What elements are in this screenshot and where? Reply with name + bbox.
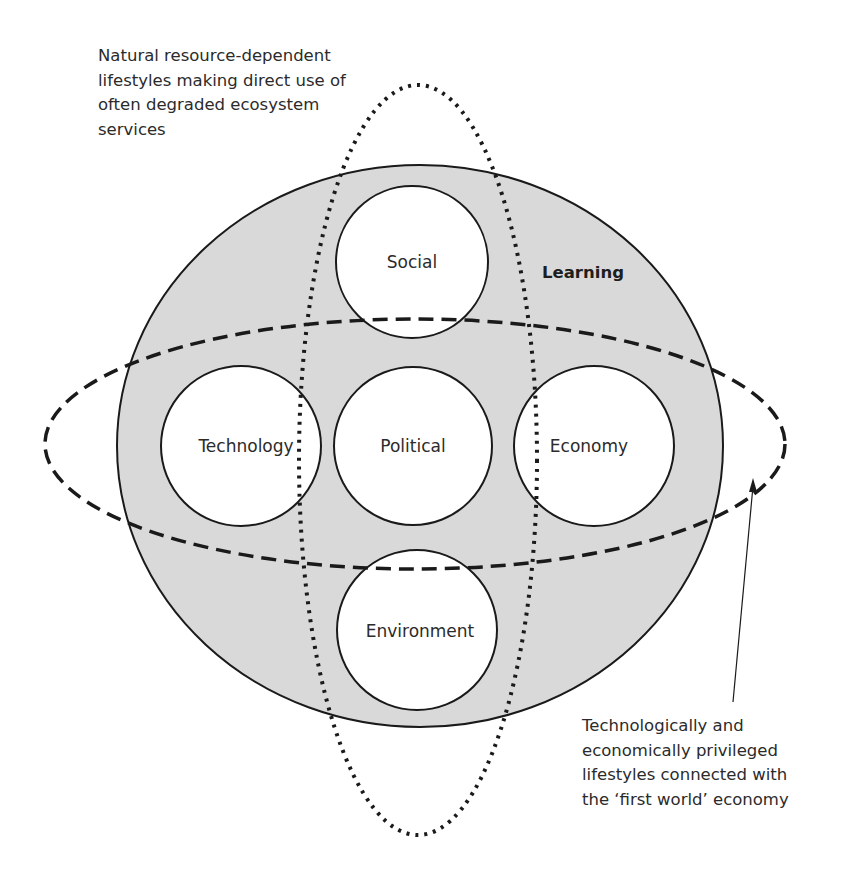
- lifestyle-diagram: Learning Social Technology Political Eco…: [0, 0, 841, 873]
- political-label: Political: [380, 436, 445, 456]
- technology-label: Technology: [197, 436, 293, 456]
- arrow-head-icon: [749, 478, 757, 492]
- annotation-arrow-line: [733, 486, 753, 702]
- environment-label: Environment: [366, 621, 475, 641]
- economy-label: Economy: [550, 436, 628, 456]
- learning-label: Learning: [542, 263, 624, 282]
- social-label: Social: [387, 252, 437, 272]
